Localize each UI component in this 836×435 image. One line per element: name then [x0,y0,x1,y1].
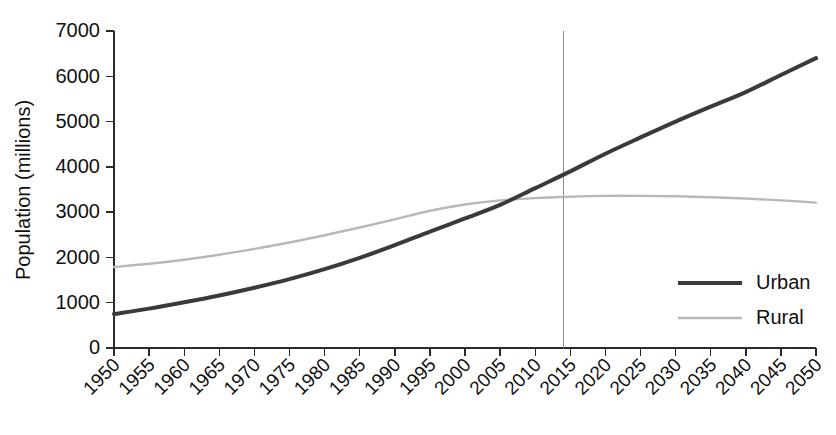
y-tick-label: 2000 [56,246,101,268]
series-line-rural [114,196,816,267]
chart-canvas: 01000200030004000500060007000 1950195519… [0,0,836,435]
x-tick-label: 2010 [500,354,545,399]
y-tick-label: 1000 [56,291,101,313]
y-tick-label: 4000 [56,155,101,177]
x-tick-label: 2035 [676,354,721,399]
x-tick-label: 2030 [641,354,686,399]
x-tick-label: 2050 [781,354,826,399]
x-tick-labels: 1950195519601965197019751980198519901995… [79,354,826,399]
x-tick-label: 2020 [570,354,615,399]
x-tick-label: 1985 [325,354,370,399]
x-tick-label: 2015 [535,354,580,399]
x-tick-label: 1965 [184,354,229,399]
y-axis-title: Population (millions) [12,100,34,280]
x-tick-label: 1970 [219,354,264,399]
population-line-chart: 01000200030004000500060007000 1950195519… [0,0,836,435]
y-tick-label: 6000 [56,65,101,87]
x-tick-label: 1960 [149,354,194,399]
legend: UrbanRural [678,271,810,328]
x-tick-label: 1955 [114,354,159,399]
y-tick-label: 7000 [56,19,101,41]
x-tick-label: 2000 [430,354,475,399]
y-tick-label: 0 [89,336,100,358]
x-tick-label: 2025 [606,354,651,399]
x-tick-label: 1975 [255,354,300,399]
axes-group [114,31,816,348]
x-tick-label: 1980 [290,354,335,399]
x-tick-label: 2005 [465,354,510,399]
legend-label-rural: Rural [756,306,804,328]
y-tick-marks [106,31,114,348]
x-tick-label: 1995 [395,354,440,399]
series-line-urban [114,58,816,314]
x-tick-label: 2040 [711,354,756,399]
y-tick-label: 3000 [56,200,101,222]
y-tick-labels: 01000200030004000500060007000 [56,19,101,358]
y-tick-label: 5000 [56,110,101,132]
x-tick-label: 1990 [360,354,405,399]
x-tick-label: 2045 [746,354,791,399]
x-tick-marks [114,348,816,356]
x-tick-label: 1950 [79,354,124,399]
legend-label-urban: Urban [756,271,810,293]
